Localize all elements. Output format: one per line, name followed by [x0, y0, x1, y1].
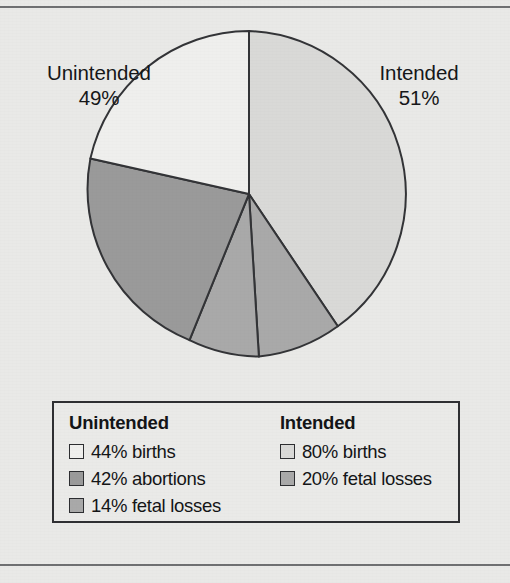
pie-label-intended-percent: 51% [356, 85, 482, 110]
legend-label: 42% abortions [91, 468, 205, 490]
pie-label-unintended-name: Unintended [47, 61, 151, 84]
legend-swatch-icon [69, 498, 84, 513]
legend-heading-unintended: Unintended [69, 412, 270, 434]
legend-swatch-icon [69, 444, 84, 459]
legend-column-unintended: Unintended 44% births 42% abortions 14% … [54, 412, 270, 521]
legend-item-intended-fetal-losses: 20% fetal losses [280, 465, 458, 492]
top-rule [0, 6, 510, 8]
legend-column-intended: Intended 80% births 20% fetal losses [270, 412, 458, 521]
pie-label-unintended: Unintended 49% [24, 60, 174, 110]
pie-chart: Unintended 49% Intended 51% [0, 14, 510, 394]
legend-item-unintended-fetal-losses: 14% fetal losses [69, 492, 270, 519]
legend-item-unintended-births: 44% births [69, 438, 270, 465]
legend-swatch-icon [69, 471, 84, 486]
pie-label-intended: Intended 51% [356, 60, 482, 110]
figure-panel: Unintended 49% Intended 51% Unintended 4… [0, 0, 510, 583]
pie-label-intended-name: Intended [380, 61, 459, 84]
legend-item-unintended-abortions: 42% abortions [69, 465, 270, 492]
legend-label: 20% fetal losses [302, 468, 432, 490]
bottom-rule [0, 564, 510, 566]
legend-item-intended-births: 80% births [280, 438, 458, 465]
legend-label: 80% births [302, 441, 386, 463]
legend-swatch-icon [280, 444, 295, 459]
legend-swatch-icon [280, 471, 295, 486]
legend-label: 14% fetal losses [91, 495, 221, 517]
legend-label: 44% births [91, 441, 175, 463]
legend: Unintended 44% births 42% abortions 14% … [52, 401, 460, 523]
pie-label-unintended-percent: 49% [24, 85, 174, 110]
legend-heading-intended: Intended [280, 412, 458, 434]
